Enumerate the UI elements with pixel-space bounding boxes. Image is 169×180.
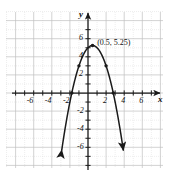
y-tick-label: -2 [77, 106, 84, 115]
y-tick-label: -4 [77, 124, 84, 133]
coordinate-plane-svg [0, 0, 169, 180]
x-tick-label: 6 [139, 96, 143, 105]
graph-figure: -6-4-2246642-2-4-6 y x (0.5, 5.25) [0, 0, 169, 180]
curve-marked-points [70, 44, 115, 95]
x-tick-label: -6 [27, 96, 34, 105]
x-tick-label: -2 [63, 96, 70, 105]
y-tick-label: 2 [79, 69, 83, 78]
vertex-coordinate-label: (0.5, 5.25) [97, 38, 130, 47]
grid-major [6, 12, 163, 168]
x-tick-label: 4 [121, 96, 125, 105]
x-axis-label: x [158, 94, 163, 104]
parabola-curve [62, 45, 124, 150]
y-tick-label: -6 [77, 142, 84, 151]
x-tick-label: -4 [45, 96, 52, 105]
x-tick-label: 2 [103, 96, 107, 105]
grid-minor [6, 12, 163, 168]
y-tick-label: 6 [79, 33, 83, 42]
y-tick-label: 4 [79, 51, 83, 60]
y-axis-label: y [79, 9, 83, 19]
